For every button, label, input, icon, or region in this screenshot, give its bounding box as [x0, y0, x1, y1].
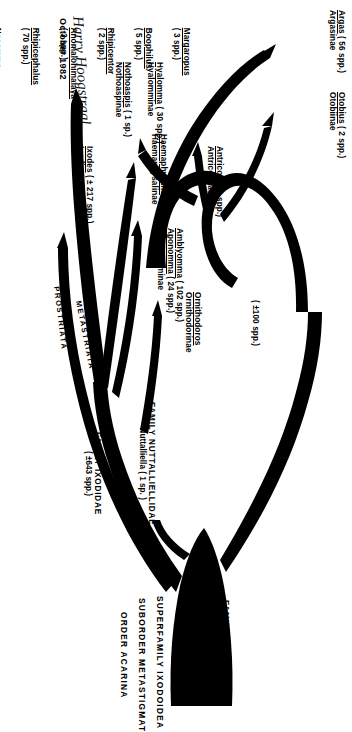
- genus-count-aponomma: ( 24 spp.): [166, 276, 175, 313]
- genus-name-boophilus: Boophilus: [144, 28, 153, 69]
- genus-row-margaropus: Margaropus ( 3 spp.): [162, 4, 200, 99]
- taxon-label-ornithodoros: Ornithodoros Ornithodorinae: [183, 292, 202, 353]
- family-name-ixodidae: FAMILY IXODIDAE: [93, 432, 102, 515]
- genus-name-ixodes: Ixodes: [85, 146, 94, 173]
- genus-row-ixodes: Ixodes ( ± 217 spp.): [85, 146, 94, 223]
- subfamily-otobiinae: Otobiinae: [327, 92, 336, 158]
- genus-name-rhipicephalus: Rhipicephalus: [31, 28, 40, 85]
- family-name-nuttalliellidae: FAMILY NUTTALLIELLIDAE: [147, 402, 156, 525]
- taxon-label-ixodinae: Ixodes ( ± 217 spp.) Ixodinae: [75, 146, 94, 223]
- taxon-label-argas: Argas ( 56 spp.) Argasinae: [327, 10, 346, 73]
- ornithodoros-species-count: ( ±100 spp.): [251, 300, 260, 346]
- taxon-label-otobius: Otobius ( 2 spp.) Otobiinae: [327, 92, 346, 158]
- dendrogram-canvas: Argas ( 56 spp.) Argasinae Otobius ( 2 s…: [0, 0, 352, 732]
- subfamily-ornithodorinae: Ornithodorinae: [183, 292, 192, 353]
- genus-row-amblyomma: Amblyomma ( 102 spp.): [175, 228, 184, 322]
- genus-name-ornithodoros: Ornithodoros: [193, 292, 202, 346]
- family-label-nuttalliellidae: FAMILY NUTTALLIELLIDAE Nuttalliella ( 1 …: [137, 402, 156, 525]
- rank-suborder: SUBORDER METASTIGMATA: [136, 598, 146, 732]
- family-count-argasidae: ( ±167 spp.): [211, 600, 220, 693]
- genus-count-antricola: ( 8 spp.): [215, 185, 224, 217]
- family-count-ixodidae: ( ±643 spp.): [83, 432, 92, 515]
- dendrogram-figure: Argas ( 56 spp.) Argasinae Otobius ( 2 s…: [52, 0, 352, 732]
- family-name-argasidae: FAMILY ARGASIDAE: [221, 600, 230, 693]
- subfamily-haemaphysalinae: Haemaphysalinae: [149, 134, 158, 239]
- ixodinae-arrowhead: [57, 232, 68, 248]
- subfamily-antricolinae: Antricolinae: [205, 146, 214, 217]
- genus-count-haemaphysalis: ( 155 spp.): [159, 197, 168, 239]
- genus-count-rhipicephalus: ( 70 spp.): [21, 28, 30, 65]
- family-label-argasidae: FAMILY ARGASIDAE ( ±167 spp.): [211, 600, 230, 693]
- genus-name-argas: Argas: [337, 10, 346, 34]
- genus-count-margaropus: ( 3 spp.): [172, 28, 181, 60]
- genus-count-hyalomma: ( 30 spp.): [155, 107, 164, 144]
- genus-name-nosomma: Nosomma: [0, 28, 2, 68]
- genus-count-nothoaspis: ( 1 sp.): [123, 110, 132, 137]
- genus-row-rhipicentor: Rhipicentor ( 2 spp.): [87, 4, 125, 99]
- rank-superfamily: SUPERFAMILY IXODOIDEA: [154, 596, 164, 729]
- signature-date: October 1982: [58, 18, 68, 80]
- otobiinae-branch: [220, 126, 272, 222]
- genus-count-ixodes: ( ± 217 spp.): [85, 175, 94, 224]
- subfamily-argasinae: Argasinae: [327, 10, 336, 73]
- figure-page: Argas ( 56 spp.) Argasinae Otobius ( 2 s…: [0, 0, 352, 732]
- subfamily-amblyomminae: Amblyomminae: [156, 228, 165, 322]
- genus-name-rhipicentor: Rhipicentor: [106, 28, 115, 75]
- genus-row-aponomma: Aponomma ( 24 spp.): [165, 228, 174, 322]
- genus-count-boophilus: ( 5 spp.): [134, 28, 143, 60]
- family-label-ixodidae: FAMILY IXODIDAE ( ±643 spp.): [83, 432, 102, 515]
- taxon-label-rhipicephalinae: Margaropus ( 3 spp.) Boophilus ( 5 spp.)…: [0, 4, 200, 99]
- dendrogram-branches: [52, 0, 352, 732]
- hyalomminae-arrowhead: [126, 162, 136, 178]
- genus-name-otobius: Otobius: [337, 92, 346, 124]
- argasidae-bough: [220, 312, 322, 572]
- genus-name-margaropus: Margaropus: [182, 28, 191, 76]
- genus-row-boophilus: Boophilus ( 5 spp.): [125, 4, 163, 99]
- haemaphysalinae-arrowhead: [131, 220, 142, 236]
- genus-count-otobius: ( 2 spp.): [337, 126, 346, 158]
- family-count-nuttalliellidae: Nuttalliella ( 1 sp. ): [137, 402, 146, 525]
- genus-row-rhipicephalus: Rhipicephalus ( 70 spp.): [12, 4, 50, 99]
- genus-name-antricola: Antricola: [215, 146, 224, 182]
- subfamily-ixodinae: Ixodinae: [75, 146, 84, 223]
- taxon-label-haemaphysalinae: Haemaphysalis ( 155 spp.) Haemaphysalina…: [149, 134, 168, 239]
- argasinae-arrowhead: [256, 44, 276, 58]
- taxon-label-antricola: Antricola ( 8 spp.) Antricolinae: [205, 146, 224, 217]
- genus-row-nosomma: Nosomma ( 1 sp. ): [0, 4, 12, 99]
- genus-count-argas: ( 56 spp.): [337, 36, 346, 73]
- genus-name-amblyomma: Amblyomma: [175, 228, 184, 278]
- otobiinae-arrowhead: [262, 112, 274, 126]
- genus-count-amblyomma: ( 102 spp.): [175, 280, 184, 322]
- rank-order: ORDER ACARINA: [118, 612, 128, 698]
- taxon-label-amblyomminae: Amblyomma ( 102 spp.) Aponomma ( 24 spp.…: [156, 228, 184, 322]
- genus-row-haemaphysalis: Haemaphysalis ( 155 spp.): [159, 134, 168, 239]
- genus-count-rhipicentor: ( 2 spp.): [97, 28, 106, 60]
